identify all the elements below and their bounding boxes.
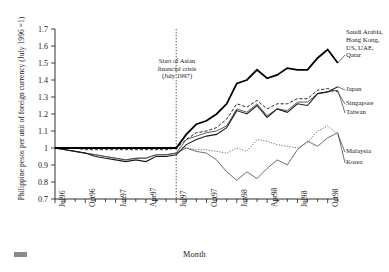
series-label-taiwan: Taiwan: [346, 108, 366, 116]
crisis-annotation: Start of Asian financial crisis (July 19…: [133, 57, 221, 80]
crisis-annotation-line3: (July 1997): [133, 72, 221, 80]
x-tick-label: Oct98: [331, 188, 340, 207]
series-label-gulf-line1: Saudi Arabia,: [346, 28, 383, 36]
figure-chart: Philippine pesos per unit of foreign cur…: [0, 0, 389, 272]
x-tick-label: Jul98: [300, 191, 309, 207]
series-label-gulf-line2: Hong Kong,: [346, 36, 383, 44]
x-tick-marks: [55, 199, 338, 203]
x-axis-title: Month: [0, 250, 389, 259]
x-tick-label: Jan97: [119, 189, 128, 207]
label-leader-lines: [338, 55, 345, 163]
x-tick-label: Jul96: [58, 191, 67, 207]
series-line-singapore: [55, 89, 338, 150]
figure-footer-mark: [14, 252, 27, 257]
x-tick-label: Apr97: [149, 188, 158, 207]
series-label-japan: Japan: [346, 85, 361, 93]
series-label-gulf-line4: Qatar: [346, 51, 383, 59]
crisis-annotation-line2: financial crisis: [133, 65, 221, 73]
x-tick-label: Apr98: [270, 188, 279, 207]
series-label-malaysia: Malaysia: [346, 147, 371, 155]
x-tick-label: Oct97: [210, 188, 219, 207]
crisis-annotation-line1: Start of Asian: [133, 57, 221, 65]
chart-plot-area: [0, 0, 389, 272]
series-label-singapore: Singapore: [346, 99, 374, 107]
x-tick-label: Jul97: [179, 191, 188, 207]
y-tick-marks: [51, 29, 55, 199]
x-tick-label: Oct96: [88, 188, 97, 207]
series-label-gulf-us-group: Saudi Arabia, Hong Kong, US, UAE, Qatar: [346, 28, 383, 59]
series-label-gulf-line3: US, UAE,: [346, 44, 383, 52]
x-tick-label: Jan98: [240, 189, 249, 207]
series-label-korea: Korea: [346, 158, 363, 166]
